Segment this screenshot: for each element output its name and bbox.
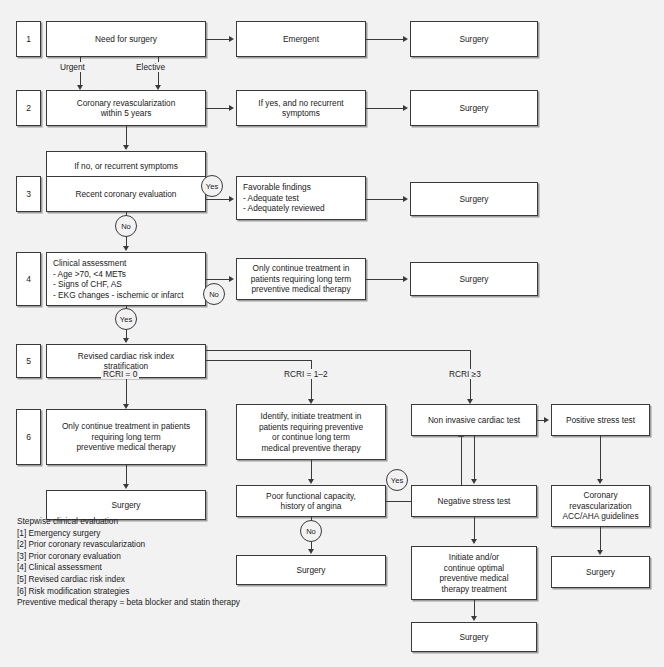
node-poor-functional-capacity[interactable]: Poor functional capacity, history of ang… — [236, 485, 386, 517]
decision-yes-poor-functional: Yes — [386, 469, 408, 491]
edge-rcri0 — [126, 378, 127, 406]
arrowhead-revasc-to-ifno — [123, 145, 129, 150]
node-identify-initiate-label: Identify, initiate treatment in patients… — [259, 411, 363, 453]
step-number-1: 1 — [16, 21, 41, 57]
step-number-4: 4 — [16, 252, 41, 306]
node-non-invasive-cardiac-test[interactable]: Non invasive cardiac test — [411, 404, 537, 436]
arrowhead-col1-to-surgery — [123, 484, 129, 489]
arrowhead-step4-no — [229, 276, 234, 282]
node-coronary-revascularization-label: Coronary revascularization within 5 year… — [77, 98, 176, 119]
legend-item-0: [1] Emergency surgery — [17, 528, 240, 540]
legend-footnote: Preventive medical therapy = beta blocke… — [17, 597, 240, 609]
node-if-yes-no-recurrent[interactable]: If yes, and no recurrent symptoms — [236, 90, 366, 126]
decision-no-step4: No — [203, 283, 225, 305]
node-clinical-assessment-title: Clinical assessment — [53, 258, 126, 269]
node-if-yes-no-recurrent-label: If yes, and no recurrent symptoms — [258, 98, 343, 119]
edge-positive-to-revasc — [600, 436, 601, 480]
node-surgery-row2-label: Surgery — [459, 103, 488, 114]
node-emergent[interactable]: Emergent — [236, 21, 366, 57]
node-surgery-col2-label: Surgery — [296, 565, 325, 576]
favorable-item-0: - Adequate test — [243, 193, 325, 204]
edge-col1-to-surgery — [126, 465, 127, 485]
arrowhead-revasc-to-ifyes — [229, 105, 234, 111]
edge-initiate-to-surgery — [474, 600, 475, 617]
node-clinical-assessment[interactable]: Clinical assessment - Age >70, <4 METs -… — [46, 252, 206, 306]
arrowhead-revasc-to-surgery-col4 — [597, 550, 603, 555]
node-surgery-col3-label: Surgery — [459, 632, 488, 643]
node-need-for-surgery[interactable]: Need for surgery — [46, 21, 206, 57]
edge-label-urgent: Urgent — [58, 62, 87, 72]
node-if-no-recurrent-symptoms-label: If no, or recurrent symptoms — [74, 161, 178, 172]
node-identify-initiate[interactable]: Identify, initiate treatment in patients… — [236, 404, 386, 460]
decision-no-step4-label: No — [209, 290, 219, 299]
step-number-6: 6 — [16, 409, 41, 465]
arrowhead-initiate-to-surgery — [471, 616, 477, 621]
edge-need-to-emergent — [206, 39, 230, 40]
legend-item-4: [5] Revised cardiac risk index — [17, 574, 240, 586]
decision-no-poor-functional: No — [300, 520, 322, 542]
arrowhead-emergent-to-surgery — [403, 36, 408, 42]
step-number-5: 5 — [16, 344, 41, 378]
decision-yes-step3-label: Yes — [206, 182, 218, 191]
legend-item-5: [6] Risk modification strategies — [17, 586, 240, 598]
decision-no-step3: No — [115, 215, 137, 237]
node-surgery-col2[interactable]: Surgery — [236, 555, 386, 585]
node-need-for-surgery-label: Need for surgery — [95, 34, 157, 45]
node-favorable-findings-title: Favorable findings — [243, 182, 311, 193]
step-number-2-label: 2 — [26, 103, 31, 113]
arrowhead-step4-yes — [123, 338, 129, 343]
arrowhead-noninvasive-to-positive — [544, 417, 549, 423]
node-favorable-findings[interactable]: Favorable findings - Adequate test - Ade… — [236, 176, 366, 220]
edge-revasc-to-surgery-col4 — [600, 527, 601, 552]
node-only-continue-row4[interactable]: Only continue treatment in patients requ… — [236, 258, 366, 300]
step-number-3-label: 3 — [26, 189, 31, 199]
edge-onlycontinue-to-surgery — [366, 279, 404, 280]
node-clinical-assessment-list: - Age >70, <4 METs - Signs of CHF, AS - … — [53, 269, 184, 301]
node-surgery-row4-label: Surgery — [459, 274, 488, 285]
node-recent-coronary-evaluation[interactable]: Recent coronary evaluation — [46, 176, 206, 212]
edge-label-elective: Elective — [134, 62, 167, 72]
arrowhead-identify-to-poor — [308, 479, 314, 484]
node-coronary-revasc-guidelines-label: Coronary revascularization ACC/AHA guide… — [562, 490, 638, 522]
edge-label-rcri-0: RCRI = 0 — [101, 369, 139, 379]
node-surgery-row4[interactable]: Surgery — [410, 262, 538, 296]
arrowhead-poor-no — [308, 549, 314, 554]
node-negative-stress-test[interactable]: Negative stress test — [411, 485, 537, 517]
node-only-continue-row4-label: Only continue treatment in patients requ… — [251, 263, 352, 295]
decision-yes-step4: Yes — [115, 308, 137, 330]
node-surgery-col4[interactable]: Surgery — [551, 556, 650, 588]
arrowhead-positive-to-revasc — [597, 479, 603, 484]
node-surgery-row3[interactable]: Surgery — [410, 182, 538, 216]
edge-negative-to-initiate — [474, 517, 475, 541]
node-surgery-row1[interactable]: Surgery — [410, 21, 538, 57]
clinical-item-0: - Age >70, <4 METs — [53, 269, 184, 280]
clinical-item-2: - EKG changes - ischemic or infarct — [53, 290, 184, 301]
node-surgery-row2[interactable]: Surgery — [410, 90, 538, 126]
step-number-4-label: 4 — [26, 274, 31, 284]
node-poor-functional-capacity-label: Poor functional capacity, history of ang… — [266, 491, 356, 512]
decision-yes-step4-label: Yes — [120, 315, 132, 324]
node-coronary-revasc-guidelines[interactable]: Coronary revascularization ACC/AHA guide… — [551, 485, 650, 527]
edge-identify-to-poor — [311, 460, 312, 480]
node-positive-stress-test[interactable]: Positive stress test — [551, 404, 650, 436]
legend-heading: Stepwise clinical evaluation — [17, 516, 240, 528]
arrowhead-need-to-emergent — [229, 36, 234, 42]
decision-yes-step3: Yes — [201, 175, 223, 197]
node-initiate-continue-optimal[interactable]: Initiate and/or continue optimal prevent… — [411, 546, 537, 600]
node-favorable-findings-list: - Adequate test - Adequately reviewed — [243, 193, 325, 214]
edge-label-rcri-3: RCRI ≥3 — [447, 369, 483, 379]
flowchart-canvas: 1 Need for surgery Emergent Surgery Urge… — [0, 0, 664, 667]
node-non-invasive-cardiac-test-label: Non invasive cardiac test — [428, 415, 520, 426]
node-surgery-col1-label: Surgery — [111, 500, 140, 511]
node-surgery-row1-label: Surgery — [459, 34, 488, 45]
node-recent-coronary-evaluation-label: Recent coronary evaluation — [75, 189, 176, 200]
edge-revasc-to-ifyes — [206, 108, 230, 109]
edge-noninvasive-to-negative — [474, 436, 475, 480]
node-coronary-revascularization[interactable]: Coronary revascularization within 5 year… — [46, 90, 206, 126]
node-positive-stress-test-label: Positive stress test — [566, 415, 635, 426]
legend: Stepwise clinical evaluation [1] Emergen… — [17, 516, 240, 609]
edge-revasc-to-ifno — [126, 126, 127, 146]
edge-step4-no — [206, 279, 230, 280]
node-surgery-col3[interactable]: Surgery — [411, 622, 537, 652]
node-only-continue-row6[interactable]: Only continue treatment in patients requ… — [46, 409, 206, 465]
